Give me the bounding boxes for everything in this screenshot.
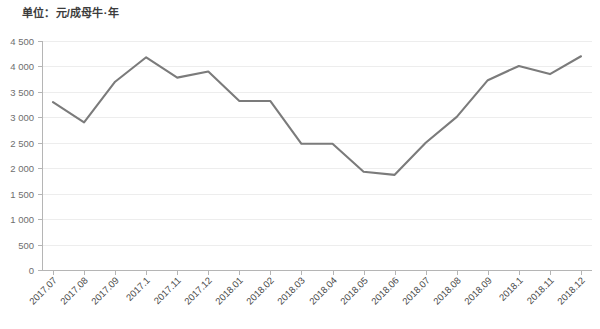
y-axis-ticks-group xyxy=(38,42,42,271)
x-axis-tick-label: 2018.11 xyxy=(524,275,556,307)
x-axis-tick-label: 2018.08 xyxy=(431,275,463,307)
x-axis-tick-label: 2018.05 xyxy=(338,275,370,307)
x-axis-tick-label: 2017.1 xyxy=(124,275,152,303)
chart-plot-area: 05001 0001 5002 0002 5003 0003 5004 0004… xyxy=(0,0,600,329)
y-axis-tick-label: 0 xyxy=(29,265,34,276)
x-axis-tick-label: 2018.07 xyxy=(400,275,432,307)
y-axis-tick-label: 1 500 xyxy=(10,189,34,200)
y-axis-tick-label: 4 000 xyxy=(10,61,34,72)
y-axis-tick-label: 500 xyxy=(18,240,34,251)
x-axis-tick-label: 2018.06 xyxy=(369,275,401,307)
x-axis-tick-label: 2017.08 xyxy=(58,275,90,307)
x-axis-tick-label: 2018.12 xyxy=(555,275,587,307)
y-axis-tick-label: 4 500 xyxy=(10,36,34,47)
x-axis-tick-label: 2018.1 xyxy=(497,275,525,303)
series-line-0 xyxy=(53,56,581,175)
x-axis-tick-label: 2017.09 xyxy=(89,275,121,307)
x-axis-tick-label: 2017.11 xyxy=(151,275,183,307)
y-axis-tick-label: 2 500 xyxy=(10,138,34,149)
x-axis-tick-label: 2018.09 xyxy=(462,275,494,307)
y-axis-tick-label: 2 000 xyxy=(10,163,34,174)
x-axis-tick-label: 2018.04 xyxy=(307,275,339,307)
y-axis-labels-group: 05001 0001 5002 0002 5003 0003 5004 0004… xyxy=(10,36,34,276)
x-axis-tick-label: 2017.07 xyxy=(27,275,59,307)
x-axis-labels-group: 2017.072017.082017.092017.12017.112017.1… xyxy=(27,275,587,307)
y-axis-tick-label: 1 000 xyxy=(10,214,34,225)
y-axis-tick-label: 3 500 xyxy=(10,87,34,98)
line-chart-svg: 05001 0001 5002 0002 5003 0003 5004 0004… xyxy=(0,0,600,329)
x-axis-tick-label: 2018.03 xyxy=(275,275,307,307)
chart-page: 单位：元/成母牛·年 05001 0001 5002 0002 5003 000… xyxy=(0,0,600,329)
x-axis-tick-label: 2018.01 xyxy=(213,275,245,307)
data-series-group xyxy=(53,56,581,175)
x-axis-tick-label: 2017.12 xyxy=(182,275,214,307)
x-axis-tick-label: 2018.02 xyxy=(244,275,276,307)
y-axis-tick-label: 3 000 xyxy=(10,112,34,123)
